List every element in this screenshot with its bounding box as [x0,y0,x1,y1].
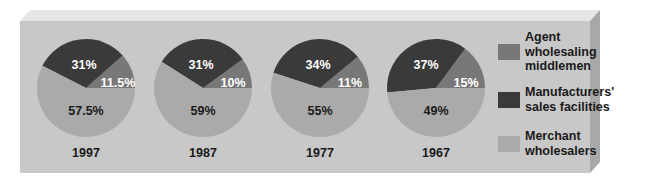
pie-value-label: 57.5% [68,104,103,118]
panel-top-bevel [20,10,600,21]
pie-value-label: 10% [220,76,245,90]
legend-swatch-agent [498,44,520,60]
pie-1977: 11%34%55% [271,39,369,137]
pie-value-label: 55% [307,104,332,118]
pie-1967: 15%37%49% [387,39,485,137]
legend-swatch-manufacturers [498,92,520,108]
pie-1997: 11.5%31%57.5% [37,39,135,137]
year-label-1977: 1977 [280,146,360,160]
pie-value-label: 49% [423,104,448,118]
legend-label-merchant: Merchant wholesalers [525,129,597,158]
legend-label-agent: Agent wholesaling middlemen [525,30,597,74]
pie-value-label: 15% [453,76,478,90]
pie-value-label: 31% [71,58,96,72]
pie-value-label: 11.5% [101,76,136,90]
pie-value-label: 11% [338,76,362,90]
year-label-1987: 1987 [163,146,243,160]
chart-figure: 11.5%31%57.5%10%31%59%11%34%55%15%37%49%… [0,0,648,184]
pie-1987: 10%31%59% [154,39,252,137]
year-label-1997: 1997 [46,146,126,160]
year-label-1967: 1967 [396,146,476,160]
pie-value-label: 31% [188,58,213,72]
pie-value-label: 34% [305,58,330,72]
pie-value-label: 37% [413,58,438,72]
legend-label-manufacturers: Manufacturers' sales facilities [525,85,614,114]
pie-value-label: 59% [190,104,215,118]
legend-swatch-merchant [498,136,520,152]
